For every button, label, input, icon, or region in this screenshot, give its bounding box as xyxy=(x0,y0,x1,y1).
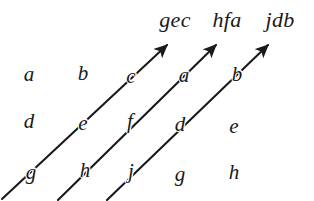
letter-j-row3: j xyxy=(128,161,134,182)
letter-a-row1: a xyxy=(24,64,35,85)
letter-g-row3-right: g xyxy=(175,164,186,185)
letter-e-row2-right: e xyxy=(229,116,238,137)
letter-f-row2: f xyxy=(127,111,133,132)
parallel-arrows-figure: gec hfa jdb a b c a b d e f d e g h j g … xyxy=(0,0,314,201)
letter-h-row3: h xyxy=(80,160,91,181)
letter-a-row1-right: a xyxy=(179,65,190,86)
letter-e-row2: e xyxy=(78,113,87,134)
letter-g-row3: g xyxy=(26,162,37,183)
arrow-3-label: jdb xyxy=(265,9,294,31)
letter-d-row2-right: d xyxy=(175,114,186,135)
arrow-1-label: gec xyxy=(159,9,190,31)
letter-h-row3-right: h xyxy=(229,162,240,183)
letter-b-row1-right: b xyxy=(232,64,243,85)
letter-b-row1: b xyxy=(78,63,89,84)
letter-d-row2: d xyxy=(24,111,35,132)
arrow-2-label: hfa xyxy=(212,9,241,31)
letter-c-row1: c xyxy=(126,66,135,87)
